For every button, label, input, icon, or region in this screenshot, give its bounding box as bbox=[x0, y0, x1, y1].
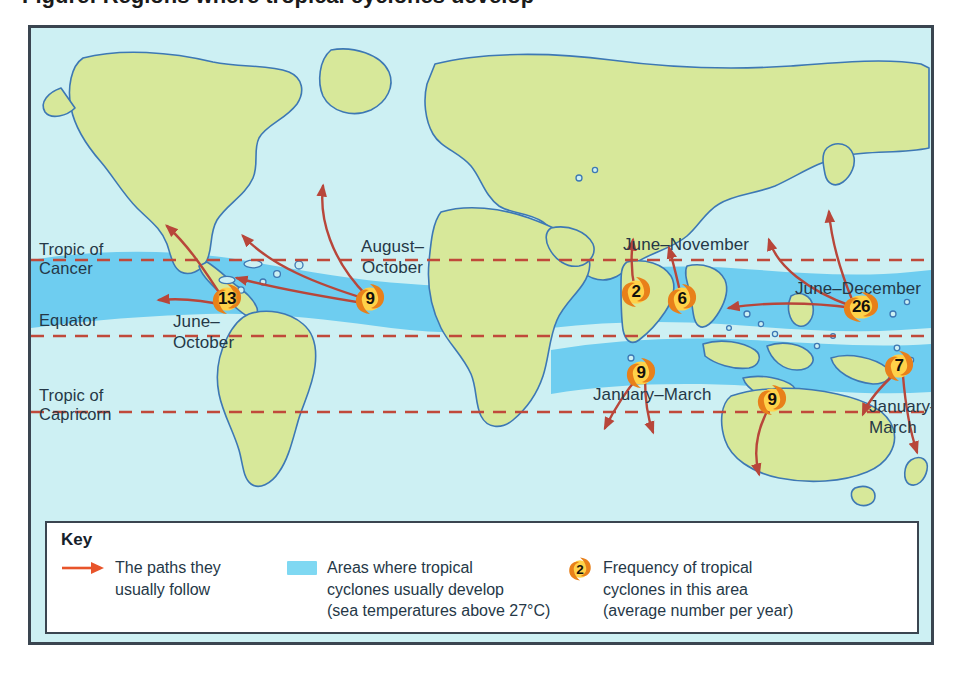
world-map: Tropic of Cancer Equator Tropic of Capri… bbox=[31, 28, 931, 509]
label-equator: Equator bbox=[39, 311, 98, 330]
season-label-north-atlantic: August– October bbox=[361, 236, 424, 278]
cyclone-icon: 2 bbox=[567, 556, 593, 582]
cyclone-marker-southwest-indian[interactable]: 9 bbox=[624, 356, 658, 390]
key-item-frequency: 2 Frequency of tropical cyclones in this… bbox=[567, 557, 793, 622]
cyclone-value: 26 bbox=[840, 290, 882, 324]
cyclone-marker-northwest-pacific[interactable]: 26 bbox=[840, 290, 882, 324]
season-label-east-pacific: June– October bbox=[173, 311, 234, 353]
season-label-south-pacific: January– March bbox=[869, 396, 931, 438]
label-tropic-of-capricorn: Tropic of Capricorn bbox=[39, 386, 111, 424]
key-item-label: The paths they usually follow bbox=[115, 557, 221, 600]
cyclone-value: 13 bbox=[210, 282, 244, 316]
key-item-areas: Areas where tropical cyclones usually de… bbox=[287, 557, 550, 622]
cyclone-marker-east-pacific[interactable]: 13 bbox=[210, 282, 244, 316]
cyclone-value: 9 bbox=[624, 356, 658, 390]
cyclone-value: 6 bbox=[665, 282, 699, 316]
cyclone-value: 9 bbox=[755, 383, 789, 417]
cyclone-marker-arabian-sea[interactable]: 2 bbox=[619, 275, 653, 309]
cyclone-marker-northwest-australia[interactable]: 9 bbox=[755, 383, 789, 417]
cyclone-marker-bay-of-bengal[interactable]: 6 bbox=[665, 282, 699, 316]
cyclone-marker-north-atlantic[interactable]: 9 bbox=[353, 282, 387, 316]
key-item-label: Areas where tropical cyclones usually de… bbox=[327, 557, 550, 622]
key-item-paths: The paths they usually follow bbox=[61, 557, 221, 600]
season-label-north-indian: June–November bbox=[623, 234, 749, 255]
figure-frame: Tropic of Cancer Equator Tropic of Capri… bbox=[28, 25, 934, 645]
key-box: Key The paths they usually follow Areas … bbox=[45, 521, 919, 634]
figure-title-cropped: Figure: Regions where tropical cyclones … bbox=[0, 0, 956, 14]
label-tropic-of-cancer: Tropic of Cancer bbox=[39, 240, 103, 278]
key-title: Key bbox=[61, 530, 92, 550]
cyclone-icon-value: 2 bbox=[567, 556, 593, 582]
cyclone-value: 2 bbox=[619, 275, 653, 309]
arrow-icon bbox=[61, 559, 105, 577]
world-map-svg bbox=[31, 28, 931, 509]
cyclone-value: 7 bbox=[882, 349, 916, 383]
tasmania bbox=[851, 486, 875, 505]
area-swatch-icon bbox=[287, 561, 317, 575]
cyclone-value: 9 bbox=[353, 282, 387, 316]
cyclone-marker-south-pacific[interactable]: 7 bbox=[882, 349, 916, 383]
key-item-label: Frequency of tropical cyclones in this a… bbox=[603, 557, 793, 622]
